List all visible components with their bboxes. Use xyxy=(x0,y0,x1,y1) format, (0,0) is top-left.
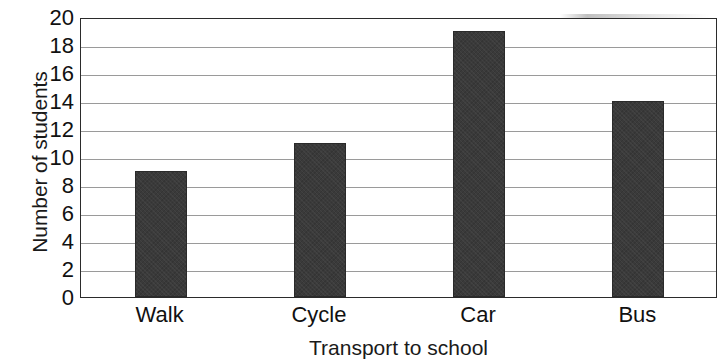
x-tick-label-bus: Bus xyxy=(557,301,717,329)
y-tick-label-16: 16 xyxy=(30,63,74,85)
plot-area xyxy=(80,18,717,298)
x-tick-label-cycle: Cycle xyxy=(239,301,399,329)
y-tick-label-20: 20 xyxy=(30,7,74,29)
x-tick-label-car: Car xyxy=(398,301,558,329)
x-axis-title: Transport to school xyxy=(80,336,717,360)
y-axis-tick-labels: 20181614121086420 xyxy=(30,18,74,298)
y-tick-label-6: 6 xyxy=(30,203,74,225)
bar-bus xyxy=(612,101,664,297)
bars-layer xyxy=(81,19,716,297)
y-tick-label-10: 10 xyxy=(30,147,74,169)
y-tick-label-2: 2 xyxy=(30,259,74,281)
y-tick-label-12: 12 xyxy=(30,119,74,141)
y-tick-label-8: 8 xyxy=(30,175,74,197)
scan-artifact xyxy=(560,14,710,18)
bar-walk xyxy=(135,171,187,297)
y-tick-label-14: 14 xyxy=(30,91,74,113)
bar-car xyxy=(453,31,505,297)
bar-chart-figure: Number of students 20181614121086420 Wal… xyxy=(0,0,723,363)
y-tick-label-4: 4 xyxy=(30,231,74,253)
y-tick-label-18: 18 xyxy=(30,35,74,57)
y-tick-label-0: 0 xyxy=(30,287,74,309)
x-axis-tick-labels: WalkCycleCarBus xyxy=(80,301,717,333)
bar-cycle xyxy=(294,143,346,297)
x-tick-label-walk: Walk xyxy=(80,301,240,329)
